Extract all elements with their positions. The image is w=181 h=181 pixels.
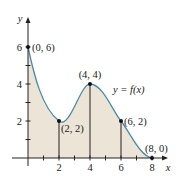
x-axis-label: x (165, 162, 171, 173)
point-label: (2, 2) (61, 123, 84, 135)
x-tick-label: 4 (87, 162, 93, 173)
point-8-0 (150, 156, 154, 160)
x-axis-arrow-icon (162, 156, 168, 161)
function-area-chart: 2 4 6 8 2 4 6 x y y = f(x) (0, 6) (2, 2)… (0, 0, 181, 181)
y-tick-label: 6 (17, 42, 22, 53)
y-axis-arrow-icon (26, 17, 31, 23)
x-tick-label: 6 (118, 162, 123, 173)
point-6-2 (119, 119, 123, 123)
point-0-6 (26, 45, 30, 49)
point-4-4 (88, 82, 92, 86)
x-tick-label: 2 (56, 162, 61, 173)
y-tick-label: 2 (17, 116, 22, 127)
function-label: y = f(x) (112, 84, 145, 96)
y-tick-label: 4 (17, 79, 23, 90)
point-label: (0, 6) (32, 42, 55, 54)
point-label: (8, 0) (145, 143, 168, 155)
point-label: (4, 4) (79, 69, 102, 81)
point-label: (6, 2) (124, 116, 147, 128)
x-tick-label: 8 (149, 162, 154, 173)
y-axis-label: y (17, 13, 23, 24)
